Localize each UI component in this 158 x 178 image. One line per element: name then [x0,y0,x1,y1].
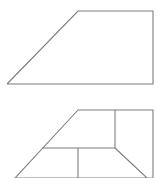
canvas-background [0,0,158,178]
figure-canvas [0,0,158,178]
geometry-diagram [0,0,158,178]
